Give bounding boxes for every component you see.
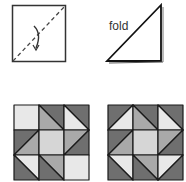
diagram-canvas (0, 0, 186, 182)
quilt-cell (108, 105, 133, 130)
folded-triangle (107, 5, 163, 63)
quilt-cell (158, 155, 183, 180)
quilt-cell (39, 130, 64, 155)
quilt-cell (158, 130, 183, 155)
quilt-cell (64, 155, 89, 180)
quilt-cell (158, 105, 183, 130)
quilt-cell (39, 105, 64, 130)
quilt-block-1 (14, 105, 89, 180)
quilt-cell (14, 105, 39, 130)
quilt-cell (39, 155, 64, 180)
quilt-cell (14, 130, 39, 155)
quilt-cell (14, 155, 39, 180)
fold-label: fold (109, 19, 128, 33)
quilt-cell (108, 130, 133, 155)
quilt-cell (64, 105, 89, 130)
quilt-cell (133, 105, 158, 130)
quilt-cell (133, 155, 158, 180)
quilt-block-2 (108, 105, 183, 180)
square-with-fold-line (13, 6, 66, 62)
quilt-cell (108, 155, 133, 180)
quilt-cell (133, 130, 158, 155)
quilt-cell (64, 130, 89, 155)
